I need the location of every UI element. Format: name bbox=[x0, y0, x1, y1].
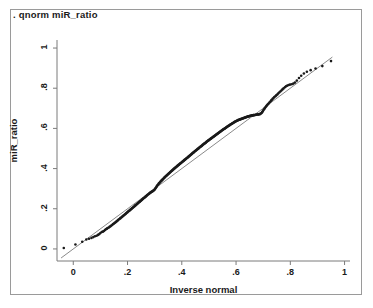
figure-frame bbox=[10, 9, 362, 295]
x-axis-title: Inverse normal bbox=[57, 284, 350, 295]
y-tick-label: .8 bbox=[39, 75, 49, 99]
y-tick-label: 0 bbox=[39, 236, 49, 260]
y-tick-label: .6 bbox=[39, 115, 49, 139]
x-tick-label: .8 bbox=[278, 267, 302, 277]
x-tick-label: .6 bbox=[224, 267, 248, 277]
y-tick-label: .2 bbox=[39, 196, 49, 220]
y-tick-label: 1 bbox=[39, 35, 49, 59]
x-tick-label: 1 bbox=[333, 267, 357, 277]
x-tick-label: .4 bbox=[170, 267, 194, 277]
y-tick-label: .4 bbox=[39, 156, 49, 180]
y-axis-title: miR_ratio bbox=[8, 111, 19, 171]
command-title: . qnorm miR_ratio bbox=[13, 9, 98, 20]
x-tick-label: .2 bbox=[116, 267, 140, 277]
x-tick-label: 0 bbox=[61, 267, 85, 277]
